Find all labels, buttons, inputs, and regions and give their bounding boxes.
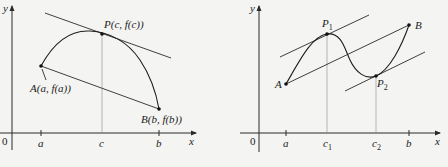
left-x-axis-label: x (188, 135, 194, 147)
left-point-b (157, 107, 161, 111)
right-tick-label-c1: c1 (323, 137, 332, 152)
left-label-a: A(a, f(a)) (29, 82, 71, 95)
left-label-b: B(b, f(b)) (141, 113, 182, 126)
left-point-a-pointer (42, 69, 46, 80)
left-origin-label: 0 (2, 135, 8, 147)
right-y-axis-label: y (249, 2, 255, 14)
left-tick-label-a: a (38, 137, 44, 149)
right-point-a (284, 82, 288, 86)
right-origin-label: 0 (250, 135, 256, 147)
right-graph: y x 0 a c1 c2 b A P1 P2 B (240, 2, 440, 152)
left-point-p (100, 32, 104, 36)
right-point-b (407, 23, 411, 27)
right-label-p1: P1 (321, 17, 333, 32)
left-tick-label-b: b (156, 137, 162, 149)
right-label-b: B (415, 19, 422, 31)
left-point-a (39, 64, 43, 68)
left-label-p: P(c, f(c)) (103, 18, 144, 31)
right-tick-label-b: b (406, 137, 412, 149)
right-x-axis-label: x (434, 135, 440, 147)
right-point-p1 (325, 32, 329, 36)
right-tick-label-c2: c2 (372, 137, 381, 152)
right-label-a: A (274, 78, 282, 90)
right-tick-label-a: a (283, 137, 289, 149)
left-function-curve (41, 31, 159, 109)
left-tick-label-c: c (99, 137, 104, 149)
left-graph: y x 0 a c b A(a, f(a)) P(c, f(c)) B(b, f… (0, 2, 196, 150)
left-y-axis-label: y (2, 2, 8, 14)
right-label-p2: P2 (376, 77, 388, 92)
mean-value-theorem-diagram: y x 0 a c b A(a, f(a)) P(c, f(c)) B(b, f… (0, 0, 448, 167)
